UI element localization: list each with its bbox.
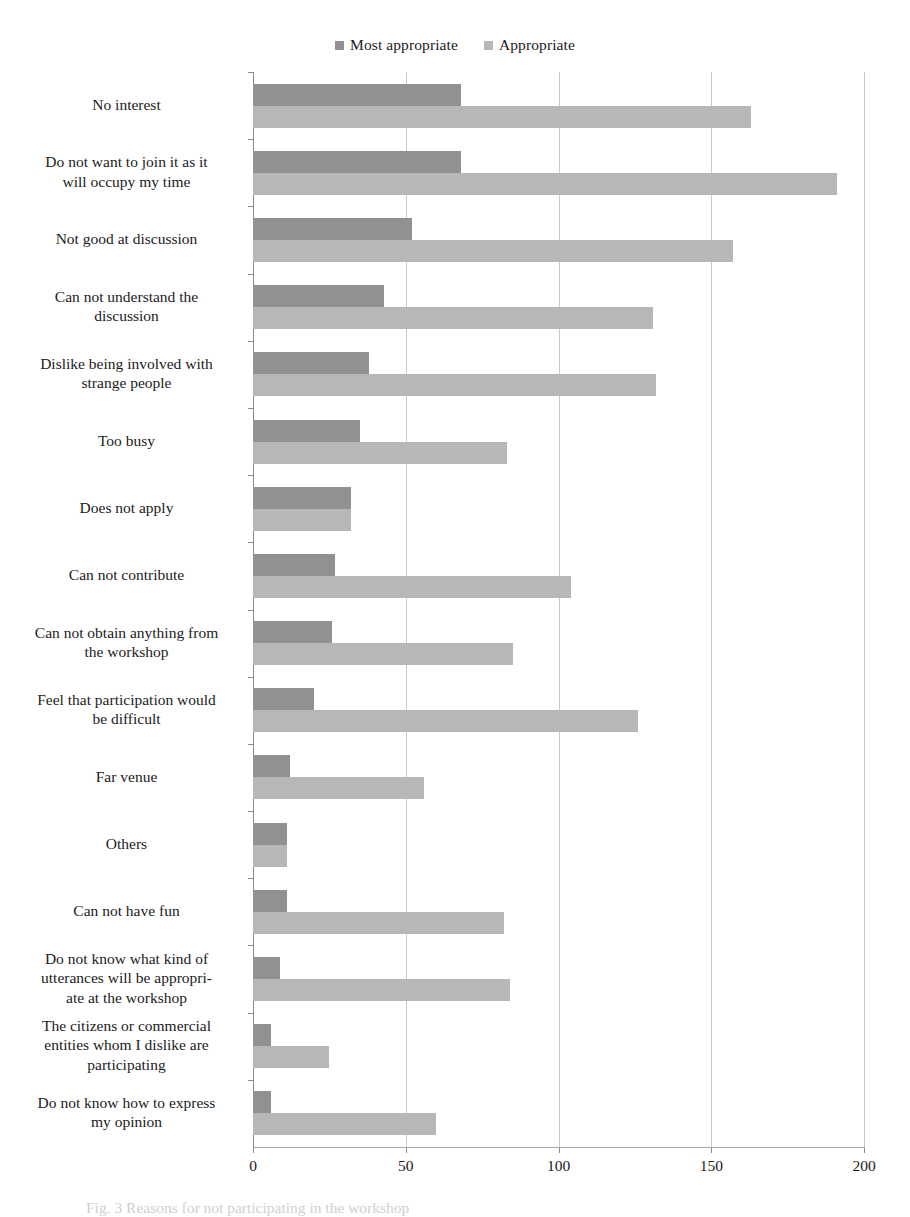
category-label: Far venue <box>2 767 251 787</box>
category-label-line: my opinion <box>2 1112 251 1132</box>
category-tickmark <box>248 542 253 543</box>
bar-appropriate[interactable] <box>253 307 653 329</box>
bar-appropriate[interactable] <box>253 777 424 799</box>
category-label: Do not know how to expressmy opinion <box>2 1093 251 1132</box>
bar-most-appropriate[interactable] <box>253 890 287 912</box>
category-label-line: be difficult <box>2 709 251 729</box>
category-label: Does not apply <box>2 498 251 518</box>
gridline-x-200 <box>864 72 865 1147</box>
category-label-line: strange people <box>2 373 251 393</box>
category-tickmark <box>248 878 253 879</box>
bar-most-appropriate[interactable] <box>253 285 384 307</box>
category-label: Do not want to join it as itwill occupy … <box>2 152 251 191</box>
category-label-line: Feel that participation would <box>2 690 251 710</box>
category-label-line: Does not apply <box>2 498 251 518</box>
category-tickmark <box>248 408 253 409</box>
bar-group <box>253 487 864 531</box>
bar-most-appropriate[interactable] <box>253 554 335 576</box>
bar-most-appropriate[interactable] <box>253 755 290 777</box>
legend-entry-most-appropriate[interactable]: Most appropriate <box>335 36 458 54</box>
bar-most-appropriate[interactable] <box>253 1091 271 1113</box>
bar-appropriate[interactable] <box>253 106 751 128</box>
category-tickmark <box>248 1080 253 1081</box>
bar-group <box>253 1024 864 1068</box>
category-label-line: participating <box>2 1055 251 1075</box>
bar-most-appropriate[interactable] <box>253 84 461 106</box>
category-tickmark <box>248 139 253 140</box>
bar-group <box>253 84 864 128</box>
category-label-line: Do not want to join it as it <box>2 152 251 172</box>
bar-appropriate[interactable] <box>253 1046 329 1068</box>
category-label: Do not know what kind ofutterances will … <box>2 949 251 1008</box>
bar-most-appropriate[interactable] <box>253 621 332 643</box>
x-tick-label: 0 <box>223 1157 283 1175</box>
chart-legend: Most appropriate Appropriate <box>0 36 910 54</box>
category-label-line: Can not contribute <box>2 565 251 585</box>
bar-most-appropriate[interactable] <box>253 218 412 240</box>
category-tickmark <box>248 811 253 812</box>
bar-most-appropriate[interactable] <box>253 957 280 979</box>
bar-group <box>253 957 864 1001</box>
category-label: The citizens or commercialentities whom … <box>2 1016 251 1075</box>
bar-most-appropriate[interactable] <box>253 420 360 442</box>
bar-most-appropriate[interactable] <box>253 1024 271 1046</box>
bar-appropriate[interactable] <box>253 845 287 867</box>
bar-appropriate[interactable] <box>253 979 510 1001</box>
bar-group <box>253 890 864 934</box>
bar-most-appropriate[interactable] <box>253 688 314 710</box>
bar-group <box>253 1091 864 1135</box>
plot-area <box>253 72 864 1147</box>
category-label-line: Dislike being involved with <box>2 354 251 374</box>
bar-group <box>253 755 864 799</box>
category-tickmark <box>248 610 253 611</box>
category-label: Others <box>2 834 251 854</box>
legend-entry-appropriate[interactable]: Appropriate <box>484 36 575 54</box>
category-label: Dislike being involved withstrange peopl… <box>2 354 251 393</box>
category-label: Can not contribute <box>2 565 251 585</box>
bar-appropriate[interactable] <box>253 643 513 665</box>
category-label-line: Too busy <box>2 431 251 451</box>
legend-label: Appropriate <box>499 36 575 54</box>
bar-group <box>253 823 864 867</box>
category-label-line: Can not have fun <box>2 901 251 921</box>
bar-appropriate[interactable] <box>253 576 571 598</box>
square-swatch-icon <box>484 41 493 50</box>
bar-most-appropriate[interactable] <box>253 823 287 845</box>
bar-group <box>253 621 864 665</box>
category-label-line: Can not understand the <box>2 287 251 307</box>
category-tickmark <box>248 475 253 476</box>
category-label: Can not have fun <box>2 901 251 921</box>
x-tick-label: 50 <box>376 1157 436 1175</box>
category-label-line: Can not obtain anything from <box>2 623 251 643</box>
bar-group <box>253 151 864 195</box>
bar-appropriate[interactable] <box>253 442 507 464</box>
category-label: Too busy <box>2 431 251 451</box>
category-label-line: will occupy my time <box>2 172 251 192</box>
bar-most-appropriate[interactable] <box>253 487 351 509</box>
bar-appropriate[interactable] <box>253 1113 436 1135</box>
category-label-line: discussion <box>2 306 251 326</box>
square-swatch-icon <box>335 41 344 50</box>
bar-appropriate[interactable] <box>253 173 837 195</box>
category-tickmark <box>248 945 253 946</box>
category-tickmark <box>248 274 253 275</box>
bar-appropriate[interactable] <box>253 710 638 732</box>
bar-most-appropriate[interactable] <box>253 151 461 173</box>
bar-appropriate[interactable] <box>253 509 351 531</box>
category-tickmark <box>248 72 253 73</box>
category-label-line: No interest <box>2 95 251 115</box>
category-label-line: Do not know how to express <box>2 1093 251 1113</box>
category-label: No interest <box>2 95 251 115</box>
category-tickmark <box>248 206 253 207</box>
bar-appropriate[interactable] <box>253 240 733 262</box>
bar-appropriate[interactable] <box>253 912 504 934</box>
x-tick-label: 150 <box>681 1157 741 1175</box>
category-tickmark <box>248 677 253 678</box>
category-label: Can not obtain anything fromthe workshop <box>2 623 251 662</box>
category-label-line: utterances will be appropri- <box>2 968 251 988</box>
bar-appropriate[interactable] <box>253 374 656 396</box>
category-tickmark <box>248 341 253 342</box>
category-tickmark <box>248 1013 253 1014</box>
category-label-line: Not good at discussion <box>2 229 251 249</box>
bar-most-appropriate[interactable] <box>253 352 369 374</box>
